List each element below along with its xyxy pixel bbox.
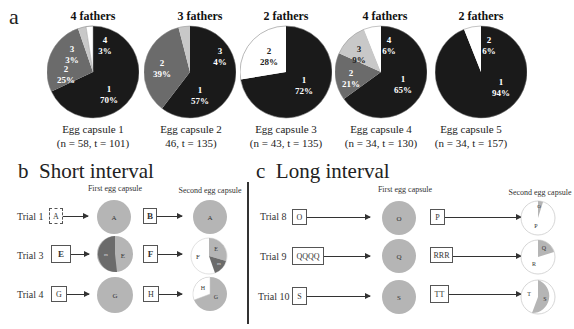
arrow bbox=[67, 294, 89, 295]
svg-text:39%: 39% bbox=[153, 69, 171, 79]
trial-1-first-pie: A bbox=[96, 199, 132, 235]
svg-text:S: S bbox=[397, 294, 401, 302]
trial-4-second-box: H bbox=[143, 286, 159, 302]
panel-c-letter: c bbox=[256, 159, 265, 183]
svg-text:6%: 6% bbox=[482, 46, 496, 56]
panel-b-title: Short interval bbox=[39, 159, 154, 183]
svg-text:2: 2 bbox=[487, 35, 492, 45]
trial-8-second-box: P bbox=[430, 209, 445, 225]
trial-4-second-pie: H G bbox=[192, 276, 228, 312]
trial-4-first-box: G bbox=[51, 286, 67, 302]
b-first-header: First egg capsule bbox=[70, 184, 160, 193]
svg-text:2: 2 bbox=[64, 64, 69, 74]
svg-text:T: T bbox=[527, 291, 531, 297]
svg-text:O: O bbox=[396, 215, 401, 223]
panel-c-heading: c Long interval bbox=[256, 160, 390, 182]
trial-8-first-pie: O bbox=[381, 200, 417, 236]
svg-text:72%: 72% bbox=[295, 86, 313, 96]
capsule-4-pie: 4 6% 3 9% 2 21% 1 65% bbox=[335, 24, 427, 120]
trial-10-first-pie: S bbox=[381, 279, 417, 315]
svg-text:94%: 94% bbox=[492, 88, 510, 98]
trial-1-label: Trial 1 bbox=[17, 211, 44, 222]
trial-9-first-box: QQQQ bbox=[292, 247, 324, 265]
svg-text:70%: 70% bbox=[100, 95, 118, 105]
svg-text:m: m bbox=[104, 252, 108, 257]
svg-text:4: 4 bbox=[103, 35, 108, 45]
svg-text:1: 1 bbox=[198, 85, 203, 95]
trial-4-label: Trial 4 bbox=[17, 289, 44, 300]
svg-text:21%: 21% bbox=[342, 79, 360, 89]
svg-text:4: 4 bbox=[387, 35, 392, 45]
trial-3-label: Trial 3 bbox=[17, 250, 44, 261]
c-second-header: Second egg capsule bbox=[505, 188, 574, 197]
trial-3-first-pie: m E bbox=[96, 235, 134, 273]
svg-text:65%: 65% bbox=[394, 85, 412, 95]
svg-text:Q: Q bbox=[396, 253, 401, 261]
svg-text:2: 2 bbox=[267, 46, 272, 56]
svg-text:4%: 4% bbox=[213, 57, 227, 67]
trial-4-first-pie: G bbox=[96, 276, 134, 314]
svg-text:3: 3 bbox=[70, 44, 75, 54]
svg-text:3%: 3% bbox=[98, 46, 112, 56]
arrow bbox=[71, 254, 89, 255]
svg-text:E: E bbox=[214, 246, 218, 252]
arrow bbox=[63, 216, 88, 217]
trial-8-label: Trial 8 bbox=[260, 211, 287, 222]
trial-3-first-box: E bbox=[51, 245, 71, 263]
svg-text:A: A bbox=[111, 214, 116, 222]
trial-8-second-pie: O P bbox=[520, 200, 556, 236]
trial-3-second-box: F bbox=[143, 245, 158, 263]
svg-text:25%: 25% bbox=[57, 75, 75, 85]
panel-b-letter: b bbox=[18, 159, 29, 183]
arrow bbox=[453, 256, 521, 257]
svg-text:1: 1 bbox=[401, 74, 406, 84]
caption-stats: (n = 34, t = 157) bbox=[406, 136, 536, 150]
svg-text:G: G bbox=[214, 294, 219, 300]
arrow bbox=[449, 294, 521, 295]
svg-text:1: 1 bbox=[107, 84, 112, 94]
capsule-1-pie: 4 3% 3 3% 2 25% 1 70% bbox=[47, 24, 139, 120]
capsule-3-pie: 2 28% 1 72% bbox=[240, 24, 332, 120]
arrow bbox=[307, 217, 370, 218]
panel-a-letter: a bbox=[9, 6, 19, 28]
capsule-5-caption: Egg capsule 5 (n = 34, t = 157) bbox=[406, 122, 536, 150]
svg-text:3: 3 bbox=[357, 44, 362, 54]
svg-text:E: E bbox=[121, 252, 125, 260]
arrow bbox=[324, 256, 370, 257]
trial-9-second-box: RRR bbox=[430, 247, 453, 263]
arrow bbox=[307, 296, 370, 297]
svg-text:Q: Q bbox=[542, 245, 547, 251]
panel-divider bbox=[247, 182, 249, 324]
trial-1-first-box: A bbox=[49, 208, 63, 224]
svg-text:2: 2 bbox=[349, 68, 354, 78]
trial-1-second-box: B bbox=[143, 208, 157, 224]
trial-10-first-box: S bbox=[292, 287, 307, 305]
caption-label: Egg capsule 5 bbox=[406, 122, 536, 136]
arrow bbox=[158, 254, 182, 255]
svg-text:A: A bbox=[207, 214, 212, 222]
svg-text:O: O bbox=[537, 204, 541, 209]
svg-text:57%: 57% bbox=[191, 96, 209, 106]
svg-text:S: S bbox=[543, 296, 546, 302]
panel-b-heading: b Short interval bbox=[18, 160, 154, 182]
trial-9-first-pie: Q bbox=[381, 238, 417, 274]
trial-3-second-pie: F E m bbox=[190, 237, 228, 275]
b-second-header: Second egg capsule bbox=[165, 186, 255, 195]
svg-text:2: 2 bbox=[160, 58, 165, 68]
trial-8-first-box: O bbox=[292, 209, 307, 225]
arrow bbox=[157, 216, 182, 217]
svg-text:R: R bbox=[532, 261, 536, 267]
svg-text:F: F bbox=[196, 253, 200, 261]
svg-text:28%: 28% bbox=[260, 57, 278, 67]
trial-10-label: Trial 10 bbox=[258, 291, 290, 302]
capsule-5-pie: 2 6% 1 94% bbox=[435, 24, 527, 120]
trial-9-label: Trial 9 bbox=[260, 251, 287, 262]
arrow bbox=[159, 294, 182, 295]
capsule-5-title: 2 fathers bbox=[421, 9, 541, 24]
svg-text:1: 1 bbox=[302, 75, 307, 85]
c-first-header: First egg capsule bbox=[360, 185, 450, 194]
arrow bbox=[445, 217, 521, 218]
trial-9-second-pie: Q R bbox=[520, 239, 556, 275]
trial-1-second-pie: A bbox=[192, 199, 228, 235]
svg-text:9%: 9% bbox=[352, 55, 366, 65]
